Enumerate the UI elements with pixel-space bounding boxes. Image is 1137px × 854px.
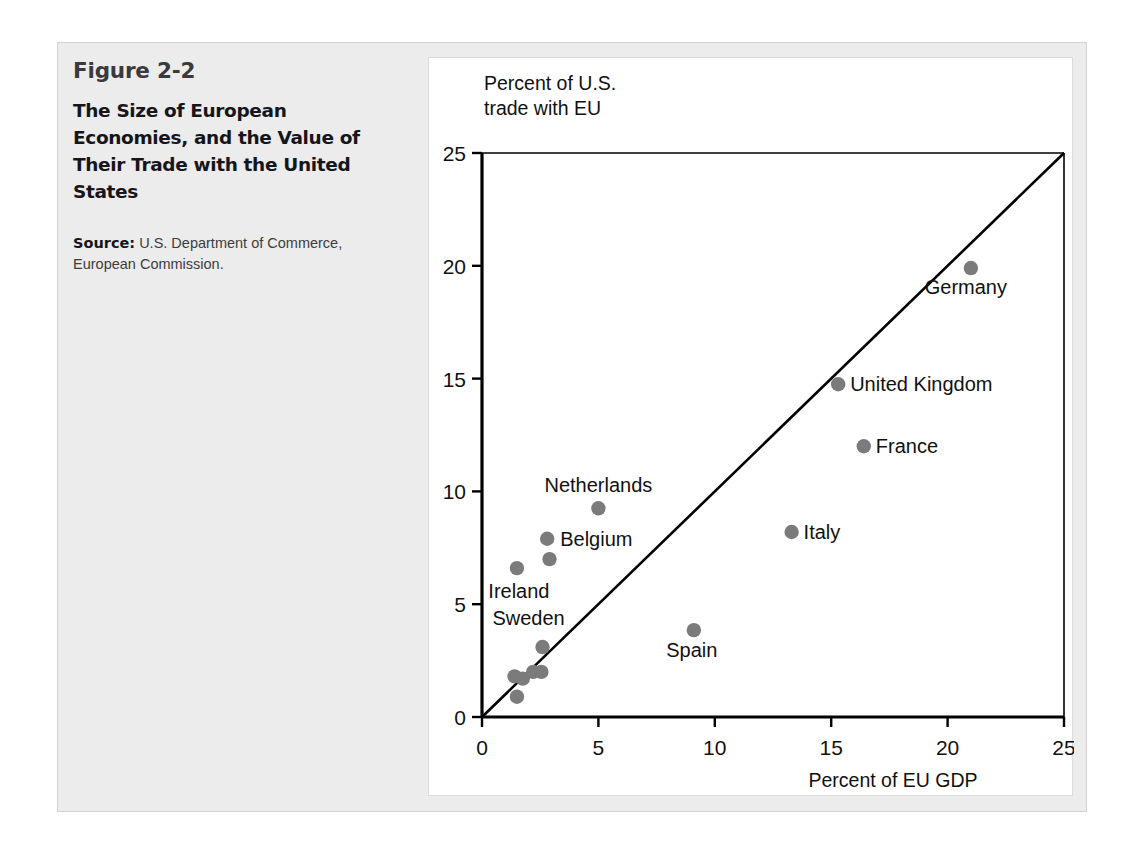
- y-tick-label: 20: [443, 255, 466, 278]
- data-point-label: Germany: [925, 276, 1007, 298]
- data-point-label: Spain: [666, 639, 717, 661]
- y-axis-title-line1: Percent of U.S.: [484, 72, 616, 94]
- figure-title: The Size of European Economies, and the …: [73, 97, 383, 205]
- x-tick-label: 5: [593, 736, 605, 759]
- data-point-label: Sweden: [492, 607, 564, 629]
- data-point[interactable]: [534, 665, 548, 679]
- reference-line-45-degree: [482, 153, 1064, 717]
- chart-panel: Percent of U.S.trade with EU051015202505…: [428, 57, 1073, 796]
- figure-number: Figure 2-2: [73, 58, 403, 83]
- x-tick-label: 0: [476, 736, 488, 759]
- figure-source: Source: U.S. Department of Commerce, Eur…: [73, 233, 373, 275]
- data-point-label: France: [876, 435, 938, 457]
- y-tick-label: 15: [443, 368, 466, 391]
- data-point-label: Netherlands: [544, 474, 652, 496]
- data-point[interactable]: [540, 532, 554, 546]
- data-point[interactable]: [542, 552, 556, 566]
- data-point[interactable]: [687, 623, 701, 637]
- y-tick-label: 25: [443, 142, 466, 165]
- figure-source-lead: Source:: [73, 235, 135, 251]
- data-point[interactable]: [857, 439, 871, 453]
- data-point[interactable]: [510, 561, 524, 575]
- figure-caption-panel: Figure 2-2 The Size of European Economie…: [73, 58, 403, 258]
- x-tick-label: 25: [1052, 736, 1074, 759]
- y-tick-label: 5: [454, 593, 466, 616]
- data-point[interactable]: [831, 377, 845, 391]
- y-tick-label: 0: [454, 706, 466, 729]
- x-axis-title: Percent of EU GDP: [808, 769, 977, 791]
- data-point[interactable]: [964, 261, 978, 275]
- y-tick-label: 10: [443, 480, 466, 503]
- data-point[interactable]: [535, 640, 549, 654]
- data-point-label: Belgium: [560, 528, 632, 550]
- data-point-label: Ireland: [488, 580, 549, 602]
- data-point[interactable]: [591, 501, 605, 515]
- data-point[interactable]: [510, 689, 524, 703]
- x-tick-label: 20: [936, 736, 959, 759]
- scatter-plot: Percent of U.S.trade with EU051015202505…: [429, 58, 1074, 797]
- x-tick-label: 10: [703, 736, 726, 759]
- data-point-label: United Kingdom: [850, 373, 992, 395]
- data-point-label: Italy: [804, 521, 841, 543]
- data-point[interactable]: [784, 525, 798, 539]
- y-axis-title-line2: trade with EU: [484, 97, 601, 119]
- x-tick-label: 15: [820, 736, 843, 759]
